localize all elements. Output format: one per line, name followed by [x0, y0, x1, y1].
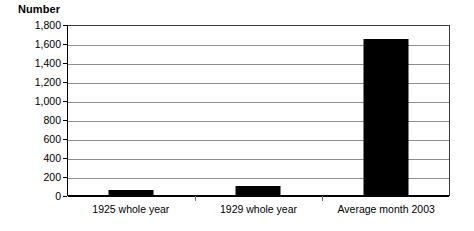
x-axis-tick-label: 1929 whole year: [195, 203, 323, 223]
y-axis-tick-label: 1,800: [3, 20, 61, 30]
bar-slot: [195, 25, 323, 196]
y-axis-tick: [63, 82, 67, 83]
y-axis-tick: [63, 158, 67, 159]
y-axis-tick-label: 1,600: [3, 39, 61, 49]
x-axis-tick-label: 1925 whole year: [67, 203, 195, 223]
y-axis-tick-label: 400: [3, 153, 61, 163]
y-axis-tick-label: 600: [3, 134, 61, 144]
y-axis-tick-label: 1,000: [3, 96, 61, 106]
y-axis-tick: [63, 101, 67, 102]
gridline: [68, 196, 449, 197]
y-axis-tick-label: 1,400: [3, 58, 61, 68]
bar-slot: [322, 25, 450, 196]
x-axis-category-tick: [322, 196, 323, 201]
y-axis-tick-label: 0: [3, 191, 61, 201]
bar-slot: [67, 25, 195, 196]
y-axis-tick: [63, 63, 67, 64]
bar[interactable]: [364, 39, 409, 196]
bar-chart: Number 02004006008001,0001,2001,4001,600…: [0, 0, 474, 231]
bar[interactable]: [236, 186, 281, 196]
y-axis-tick-label: 1,200: [3, 77, 61, 87]
y-axis-tick-label: 800: [3, 115, 61, 125]
y-axis-tick: [63, 120, 67, 121]
y-axis-tick-labels: 02004006008001,0001,2001,4001,6001,800: [0, 0, 61, 231]
y-axis-tick: [63, 25, 67, 26]
y-axis-tick: [63, 196, 67, 197]
x-axis-tick-labels: 1925 whole year1929 whole yearAverage mo…: [67, 203, 450, 223]
y-axis-tick: [63, 177, 67, 178]
bar[interactable]: [108, 190, 153, 196]
bars-layer: [67, 25, 450, 196]
y-axis-tick-label: 200: [3, 172, 61, 182]
y-axis-tick: [63, 139, 67, 140]
y-axis-tick: [63, 44, 67, 45]
x-axis-category-tick: [195, 196, 196, 201]
x-axis-tick-label: Average month 2003: [322, 203, 450, 223]
